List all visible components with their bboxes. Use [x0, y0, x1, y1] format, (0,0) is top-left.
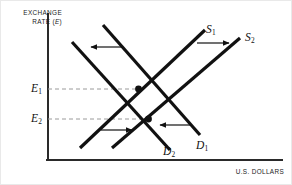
y-tick-label-e2-text: E — [31, 112, 38, 124]
equilibrium-point-e2 — [145, 116, 152, 123]
supply-curve-1-label-text: S — [206, 23, 212, 35]
demand-curve-1-label-sub: 1 — [205, 144, 209, 153]
y-axis-label-line1: EXCHANGE — [23, 9, 62, 16]
supply-curve-2-label-sub: 2 — [251, 36, 255, 45]
demand-curve-1-label-text: D — [196, 139, 204, 151]
equilibrium-markers — [135, 86, 152, 123]
x-axis-label: U.S. DOLLARS — [236, 168, 284, 177]
y-tick-label-e1: E1 — [31, 82, 42, 94]
supply-curve-1-label-sub: 1 — [212, 28, 216, 37]
supply-curve-2-label-text: S — [245, 31, 251, 43]
exchange-rate-supply-demand-figure: EXCHANGE RATE (E) U.S. DOLLARS S1 S2 D1 … — [0, 0, 292, 185]
supply-curve-2 — [112, 38, 240, 148]
y-tick-label-e2-sub: 2 — [38, 117, 42, 126]
equilibrium-point-e1 — [135, 86, 142, 93]
demand-curve-2-label: D2 — [163, 145, 175, 157]
demand-curve-2 — [72, 42, 170, 150]
supply-curve-1-label: S1 — [206, 23, 215, 35]
y-tick-label-e1-sub: 1 — [38, 87, 42, 96]
demand-curve-2-label-sub: 2 — [172, 150, 176, 159]
demand-curve-2-label-text: D — [163, 145, 171, 157]
plot-canvas — [0, 0, 292, 185]
y-axis-label-line2-suffix: ) — [60, 18, 62, 25]
supply-curve-2-label: S2 — [245, 31, 254, 43]
y-axis-label-line2-prefix: RATE ( — [32, 18, 55, 25]
y-tick-label-e2: E2 — [31, 112, 42, 124]
y-axis-label: EXCHANGE RATE (E) — [6, 9, 62, 26]
demand-curve-1-label: D1 — [196, 139, 208, 151]
equilibrium-guide-lines — [48, 89, 149, 119]
y-tick-label-e1-text: E — [31, 82, 38, 94]
